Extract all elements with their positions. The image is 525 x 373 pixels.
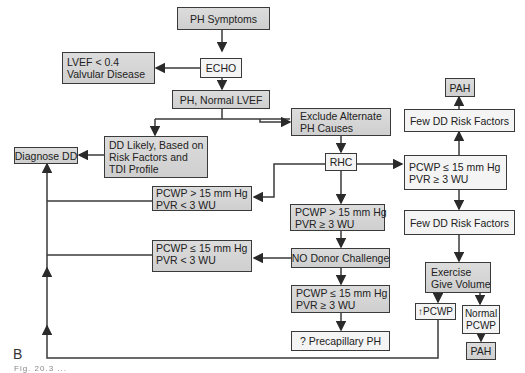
node-text: PH, Normal LVEF (180, 94, 263, 106)
node-ph-symptoms: PH Symptoms (177, 7, 270, 30)
node-text: PVR ≥ 3 WU (295, 218, 380, 230)
node-text: ↑PCWP (418, 306, 453, 318)
node-pcwp-le15-pvr-lt3: PCWP ≤ 15 mm Hg PVR < 3 WU (152, 240, 252, 272)
node-no-donor-challenge: NO Donor Challenge (291, 248, 390, 268)
node-few-dd-risk-factors-upper: Few DD Risk Factors (404, 109, 515, 132)
node-text: Exercise (431, 266, 486, 278)
node-text: PVR ≥ 3 WU (409, 173, 502, 185)
node-text: PCWP ≤ 15 mm Hg (409, 161, 502, 173)
node-text: PVR < 3 WU (156, 199, 248, 211)
node-text: Diagnose DD (15, 150, 77, 162)
node-lvef-valvular-disease: LVEF < 0.4 Valvular Disease (62, 52, 155, 84)
node-text: PCWP > 15 mm Hg (156, 187, 248, 199)
node-text: Risk Factors and (109, 151, 203, 163)
node-text: Exclude Alternate (300, 110, 386, 122)
node-text: PCWP ≤ 15 mm Hg (296, 287, 385, 299)
flowchart: PH Symptoms ECHO LVEF < 0.4 Valvular Dis… (0, 0, 525, 373)
node-normal-pcwp: Normal PCWP (462, 305, 500, 334)
node-exercise-give-volume: Exercise Give Volume (425, 262, 491, 293)
node-text: RHC (330, 156, 353, 168)
node-pcwp-le15-pvr-ge3-right: PCWP ≤ 15 mm Hg PVR ≥ 3 WU (404, 155, 507, 190)
node-text: PAH (450, 82, 471, 94)
node-text: ? Precapillary PH (300, 335, 381, 347)
node-text: NO Donor Challenge (292, 252, 389, 264)
node-text: Normal (465, 308, 497, 320)
node-increased-pcwp: ↑PCWP (415, 303, 456, 320)
node-text: ECHO (206, 62, 236, 74)
node-few-dd-risk-factors-lower: Few DD Risk Factors (404, 210, 515, 235)
node-pcwp-gt15-pvr-lt3: PCWP > 15 mm Hg PVR < 3 WU (152, 186, 252, 211)
node-text: PVR ≥ 3 WU (296, 299, 385, 311)
node-text: PCWP (466, 320, 496, 332)
node-ph-normal-lvef: PH, Normal LVEF (172, 90, 270, 109)
node-text: Few DD Risk Factors (410, 217, 509, 229)
node-text: PAH (471, 345, 492, 357)
node-exclude-alternate-ph-causes: Exclude Alternate PH Causes (291, 108, 391, 136)
node-pcwp-le15-pvr-ge3-bottom: PCWP ≤ 15 mm Hg PVR ≥ 3 WU (291, 285, 390, 313)
node-diagnose-dd: Diagnose DD (14, 147, 78, 164)
node-text: PVR < 3 WU (156, 254, 248, 266)
node-echo: ECHO (200, 58, 242, 78)
panel-label: B (13, 346, 22, 362)
node-dd-likely: DD Likely, Based on Risk Factors and TDI… (104, 136, 208, 178)
node-text: Few DD Risk Factors (410, 115, 509, 127)
node-pah-top: PAH (445, 78, 475, 97)
node-text: PCWP ≤ 15 mm Hg (156, 242, 248, 254)
node-pah-bottom: PAH (466, 342, 496, 360)
node-text: DD Likely, Based on (109, 139, 203, 151)
node-precapillary-ph: ? Precapillary PH (291, 331, 390, 351)
node-text: PH Causes (300, 122, 386, 134)
node-text: Give Volume (431, 278, 486, 290)
node-text: PH Symptoms (190, 13, 257, 25)
node-text: LVEF < 0.4 (67, 56, 150, 68)
node-text: PCWP > 15 mm Hg (295, 206, 380, 218)
node-rhc: RHC (325, 153, 357, 171)
node-text: TDI Profile (109, 163, 203, 175)
node-pcwp-gt15-pvr-ge3: PCWP > 15 mm Hg PVR ≥ 3 WU (290, 204, 385, 231)
figure-caption-fragment: Fig. 20.3 ... (14, 364, 67, 373)
node-text: Valvular Disease (67, 68, 150, 80)
